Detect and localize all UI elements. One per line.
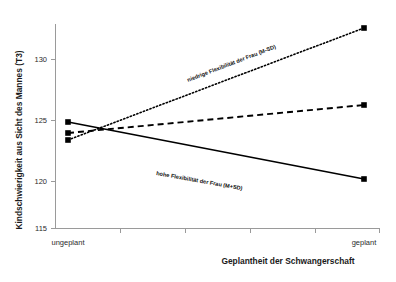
series-line-niedrige-flexibilitaet	[68, 28, 364, 140]
series-marker-hohe-left	[65, 119, 71, 125]
x-category-label-geplant: geplant	[352, 238, 378, 247]
y-axis-title: Kindschwierigkeit aus Sicht des Mannes (…	[14, 50, 24, 229]
series-line-mittlere-flexibilitaet	[68, 105, 364, 133]
series-marker-hohe-right	[361, 176, 367, 182]
series-marker-mittlere-right	[361, 102, 367, 108]
annotation-niedrige-flexibilitaet: niedrige Flexibilität der Frau (M-SD)	[186, 43, 276, 83]
annotation-hohe-flexibilitaet: hohe Flexibilität der Frau (M+SD)	[156, 170, 243, 191]
chart-container: 130 125 120 115 ungeplant geplant Kindsc…	[0, 0, 396, 282]
series-marker-niedrige-right	[361, 25, 367, 31]
x-axis-title: Geplantheit der Schwangerschaft	[221, 256, 354, 266]
series-line-hohe-flexibilitaet	[68, 122, 364, 179]
series-marker-niedrige-left	[65, 137, 71, 143]
y-tick-label-130: 130	[34, 55, 47, 64]
y-axis-ticks	[51, 60, 56, 229]
y-tick-label-120: 120	[34, 177, 47, 186]
x-category-label-ungeplant: ungeplant	[52, 238, 86, 247]
line-chart-svg: 130 125 120 115 ungeplant geplant Kindsc…	[0, 0, 396, 282]
y-tick-label-125: 125	[34, 116, 47, 125]
x-axis-ticks	[121, 229, 380, 234]
series-marker-mittlere-left	[65, 130, 71, 136]
y-tick-label-115: 115	[35, 224, 47, 233]
